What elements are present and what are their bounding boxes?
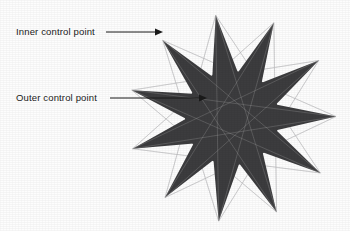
inner-control-point-label: Inner control point: [16, 27, 95, 37]
star-hub-circle: [185, 71, 279, 165]
outer-control-point-label: Outer control point: [16, 93, 97, 103]
